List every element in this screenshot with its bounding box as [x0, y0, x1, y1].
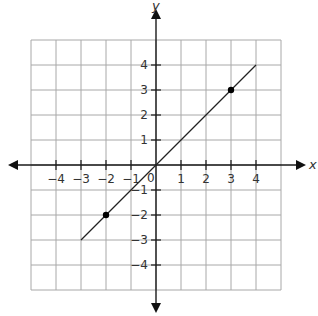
y-tick-label: −4: [130, 258, 148, 272]
x-tick-label: 1: [177, 172, 185, 186]
x-tick-label: 4: [252, 172, 260, 186]
y-tick-label: −3: [130, 233, 148, 247]
x-tick-label: −3: [72, 172, 90, 186]
coordinate-plane: −4−3−2−112344321−1−2−3−4 x y 0: [0, 0, 318, 316]
x-axis-right-arrow: [296, 160, 306, 170]
data-point: [103, 212, 109, 218]
y-tick-label: 2: [140, 108, 148, 122]
x-axis-left-arrow: [8, 160, 18, 170]
y-tick-label: −1: [130, 183, 148, 197]
y-tick-label: 4: [140, 58, 148, 72]
y-tick-label: −2: [130, 208, 148, 222]
x-tick-label: −2: [97, 172, 115, 186]
y-tick-label: 3: [140, 83, 148, 97]
y-tick-label: 1: [140, 133, 148, 147]
x-tick-label: −4: [47, 172, 65, 186]
axes: [8, 9, 306, 313]
origin-label: 0: [147, 171, 155, 185]
x-tick-label: 3: [227, 172, 235, 186]
x-axis-label: x: [308, 157, 317, 172]
y-axis-label: y: [151, 0, 160, 13]
x-tick-label: 2: [202, 172, 210, 186]
data-point: [228, 87, 234, 93]
y-axis-down-arrow: [151, 303, 161, 313]
